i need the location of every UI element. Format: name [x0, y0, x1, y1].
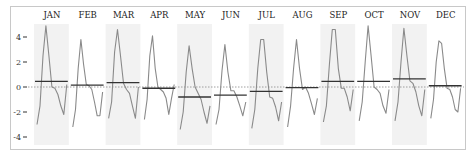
panel-feb — [71, 40, 104, 128]
month-label-dec: DEC — [436, 10, 456, 20]
series-line-oct — [359, 26, 389, 121]
y-tick-label: 2 — [16, 58, 21, 67]
month-label-jun: JUN — [221, 10, 241, 20]
y-axis: 420-2-4 — [13, 33, 27, 142]
month-label-oct: OCT — [365, 10, 384, 20]
panel-apr — [142, 36, 175, 120]
panel-dec — [429, 41, 462, 119]
month-label-jul: JUL — [258, 10, 276, 20]
month-label-feb: FEB — [79, 10, 97, 20]
month-label-may: MAY — [185, 10, 205, 20]
series-line-dec — [431, 41, 461, 119]
panel-aug — [286, 40, 319, 128]
y-tick-label: -4 — [13, 133, 21, 142]
panel-shade-mar — [106, 24, 141, 145]
panel-shade-nov — [392, 24, 427, 145]
series-line-feb — [73, 40, 103, 128]
series-line-apr — [144, 36, 174, 120]
series-line-aug — [288, 40, 318, 128]
month-label-sep: SEP — [329, 10, 347, 20]
cycle-subseries-chart: 420-2-4 JANFEBMARAPRMAYJUNJULAUGSEPOCTNO… — [0, 0, 476, 159]
y-tick-label: 0 — [16, 83, 21, 92]
month-label-apr: APR — [149, 10, 169, 20]
series-line-jun — [216, 45, 246, 125]
month-label-mar: MAR — [113, 10, 135, 20]
panel-oct — [357, 26, 390, 121]
month-labels: JANFEBMARAPRMAYJUNJULAUGSEPOCTNOVDEC — [42, 10, 455, 20]
panel-shade-sep — [320, 24, 355, 145]
y-tick-label: 4 — [16, 33, 21, 42]
month-label-aug: AUG — [291, 10, 312, 20]
month-label-jan: JAN — [42, 10, 61, 20]
month-label-nov: NOV — [400, 10, 421, 20]
y-tick-label: -2 — [13, 108, 21, 117]
panel-shade-jul — [249, 24, 284, 145]
panel-jun — [214, 45, 247, 125]
